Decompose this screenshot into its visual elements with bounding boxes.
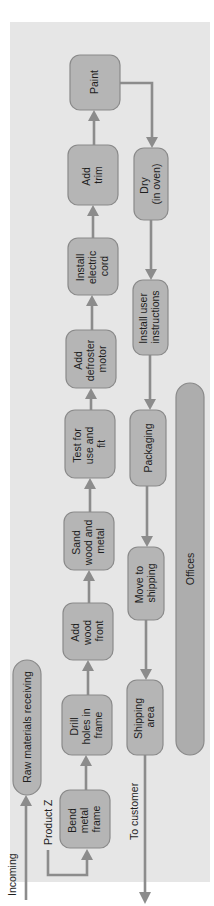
- process-diagram: Raw materials receiving Offices Incoming…: [0, 0, 214, 906]
- svg-text:Install user instruction: Install user instructions: [137, 290, 161, 344]
- arrow-head-icon: [139, 892, 151, 904]
- svg-text:Packaging: Packaging: [142, 423, 154, 472]
- offices-label: Offices: [184, 553, 196, 585]
- to-customer-label: To customer: [128, 782, 140, 840]
- step-packaging: Packaging: [130, 410, 166, 486]
- step-move-to-shipping: Move to shipping: [128, 547, 164, 620]
- step-install-electric-cord: Install electric cord: [68, 238, 118, 295]
- step-install-user-instructions: Install user instructions: [133, 280, 168, 355]
- step-bend-metal-frame: Bend metal frame: [60, 790, 110, 848]
- raw-materials-label: Raw materials receiving: [21, 671, 33, 783]
- product-z-label: Product Z: [42, 799, 54, 845]
- svg-text:Bend metal frame: Bend metal frame: [66, 805, 102, 834]
- step-sand-wood-metal: Sand wood and metal: [64, 512, 114, 570]
- step-drill-holes: Drill holes in frame: [62, 695, 112, 755]
- svg-text:Move to shipping: Move to shipping: [133, 563, 157, 603]
- step-shipping-area: Shipping area: [127, 680, 163, 755]
- svg-text:Add wood front: Add wood front: [69, 617, 105, 646]
- step-add-defroster-motor: Add defroster motor: [66, 330, 116, 388]
- incoming-label: Incoming: [6, 853, 18, 896]
- step-dry-in-oven: Dry (in oven): [134, 148, 168, 220]
- step-paint: Paint: [70, 55, 120, 110]
- area-offices: Offices: [176, 383, 204, 755]
- step-add-trim: Add trim: [68, 145, 118, 205]
- step-test-use-fit: Test for use and fit: [65, 410, 115, 478]
- area-raw-materials-receiving: Raw materials receiving: [13, 660, 41, 795]
- svg-text:Paint: Paint: [88, 70, 100, 94]
- svg-text:Add trim: Add trim: [80, 164, 104, 186]
- step-add-wood-front: Add wood front: [63, 603, 113, 660]
